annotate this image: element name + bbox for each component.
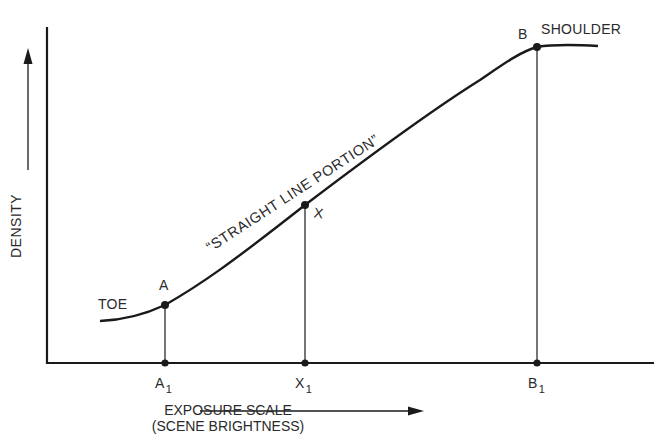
tick-x1 (301, 359, 308, 366)
point-a (161, 301, 169, 309)
x-axis-label: EXPOSURE SCALE (SCENE BRIGHTNESS) (138, 402, 318, 434)
y-axis-label: DENSITY (8, 194, 24, 258)
shoulder-label: SHOULDER (541, 21, 621, 37)
x-tick-b1: B1 (528, 375, 545, 391)
point-x (301, 201, 309, 209)
x-tick-x1: X1 (295, 375, 312, 391)
point-a-label: A (159, 277, 169, 293)
density-arrowhead-icon (24, 48, 33, 64)
point-x-label: X (313, 204, 325, 221)
characteristic-curve (100, 45, 598, 321)
point-b (533, 43, 541, 51)
exposure-arrowhead-icon (408, 407, 424, 416)
x-axis-label-line2: (SCENE BRIGHTNESS) (138, 418, 318, 434)
diagram-canvas (0, 0, 654, 446)
toe-label: TOE (98, 296, 127, 312)
x-tick-a1: A1 (155, 375, 172, 391)
point-b-label: B (518, 26, 528, 42)
tick-b1 (533, 359, 540, 366)
tick-a1 (161, 359, 168, 366)
x-axis-label-line1: EXPOSURE SCALE (138, 402, 318, 418)
